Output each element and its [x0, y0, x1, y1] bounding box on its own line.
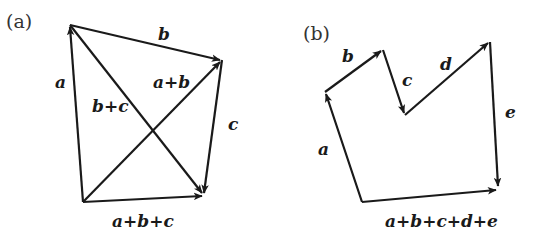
label-d: d [440, 54, 452, 74]
label-sum: a+b+c+d+e [385, 211, 498, 231]
vector-a-plus-b-plus-c-arrow-icon [83, 196, 202, 202]
label-c: c [228, 114, 239, 134]
panel-b: (b) a b c d e a+b+c+d+e [303, 22, 516, 231]
label-a: a [55, 72, 66, 92]
label-b: b [342, 46, 354, 66]
panel-a: (a) a b c a+b b+c a+b+c [6, 10, 239, 231]
label-b: b [158, 24, 170, 44]
label-a: a [318, 139, 329, 159]
label-b-plus-c: b+c [92, 96, 129, 116]
vector-a-plus-b-arrow-icon [83, 62, 220, 202]
diagram-svg: (a) a b c a+b b+c a+b+c (b) a b c [0, 0, 534, 244]
vector-a-arrow-icon [70, 27, 83, 202]
vector-addition-diagram: (a) a b c a+b b+c a+b+c (b) a b c [0, 0, 534, 244]
panel-b-label: (b) [303, 22, 330, 44]
vector-c-arrow-icon [204, 60, 222, 193]
label-e: e [505, 102, 516, 122]
vector-sum-arrow-icon [362, 190, 496, 202]
panel-a-label: (a) [6, 10, 32, 32]
label-a-plus-b: a+b [153, 72, 190, 92]
vector-c-arrow-icon [383, 50, 404, 113]
vector-a-arrow-icon [326, 94, 362, 202]
vector-e-arrow-icon [490, 42, 498, 186]
label-c: c [402, 70, 413, 90]
label-a-plus-b-plus-c: a+b+c [112, 211, 174, 231]
